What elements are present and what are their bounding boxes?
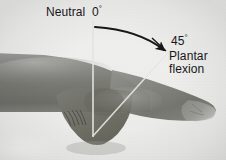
plantar-flexion-ray-core <box>93 47 173 136</box>
angle-annotation-overlay <box>0 0 226 160</box>
forty-five-degree-label: 45° <box>171 35 188 48</box>
angle-leader-line <box>152 38 166 51</box>
plantar-label-line2: flexion <box>169 63 204 76</box>
neutral-label: Neutral <box>46 6 85 19</box>
rotation-arc-arrow <box>95 27 164 50</box>
degree-symbol-icon: ° <box>99 4 102 13</box>
plantar-flexion-figure: Neutral 0° 45° Plantar flexion <box>0 0 226 160</box>
plantar-label-line1: Plantar <box>169 50 208 63</box>
zero-degree-value: 0 <box>92 5 99 19</box>
zero-degree-label: 0° <box>92 6 102 19</box>
degree-symbol-icon-2: ° <box>185 33 188 42</box>
angle-value: 45 <box>171 34 185 48</box>
